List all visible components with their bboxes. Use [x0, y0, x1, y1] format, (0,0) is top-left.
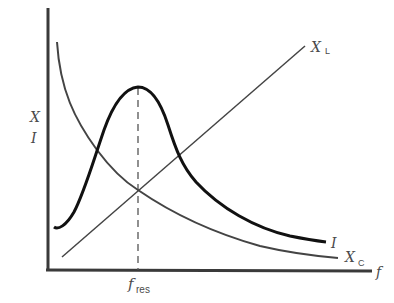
xc-label: X [344, 249, 356, 265]
y-axis-label-i: I [30, 130, 37, 146]
current-label: I [330, 235, 337, 251]
x-axis-label-f: f [375, 264, 384, 280]
xl-label-sub: L [325, 46, 330, 56]
current-curve [54, 87, 326, 242]
f-res-label: f [127, 275, 136, 293]
x-axis [46, 270, 372, 271]
xc-label-sub: C [358, 258, 365, 268]
y-axis-label-x: X [29, 109, 41, 125]
resonance-diagram: X I X L I X C f f res [0, 0, 394, 303]
xl-label: X [310, 39, 322, 55]
f-res-label-sub: res [136, 284, 150, 295]
